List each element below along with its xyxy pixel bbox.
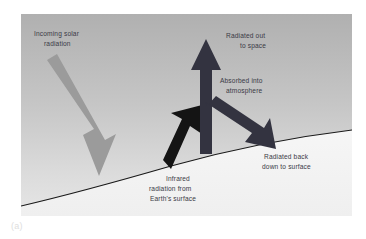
incoming-solar-line1: Incoming solar	[34, 30, 80, 38]
figure-root: Incoming solar radiation Radiated out to…	[0, 0, 366, 239]
absorbed-line2: atmosphere	[226, 87, 263, 95]
absorbed-line1: Absorbed into	[220, 77, 263, 84]
diagram-canvas: Incoming solar radiation Radiated out to…	[21, 14, 352, 216]
radiated-out-line1: Radiated out	[226, 32, 265, 39]
radiated-out-line2: to space	[240, 42, 266, 50]
radiated-back-line1: Radiated back	[264, 153, 309, 160]
radiated-back-line2: down to surface	[262, 163, 311, 170]
infrared-line1: Infrared	[166, 175, 190, 182]
greenhouse-effect-diagram: Incoming solar radiation Radiated out to…	[21, 14, 352, 216]
figure-caption: (a)	[11, 221, 23, 231]
incoming-solar-line2: radiation	[44, 40, 71, 47]
infrared-line3: Earth's surface	[150, 195, 196, 202]
infrared-line2: radiation from	[149, 185, 192, 192]
